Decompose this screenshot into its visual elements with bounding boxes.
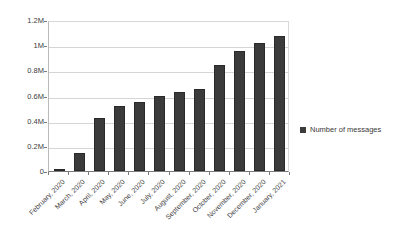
bar-slot xyxy=(89,22,109,171)
legend-square-marker-icon xyxy=(300,127,306,133)
bar-slot xyxy=(190,22,210,171)
bar-slot xyxy=(270,22,290,171)
y-axis-tick-label: 0.2M xyxy=(0,143,44,151)
chart-legend: Number of messages xyxy=(300,125,381,134)
bar-slot xyxy=(250,22,270,171)
y-axis-tick-mark xyxy=(44,71,47,72)
bar-slot xyxy=(210,22,230,171)
bar[interactable] xyxy=(174,92,185,171)
x-axis-tick-mark xyxy=(229,172,230,175)
x-axis-tick-mark xyxy=(189,172,190,175)
legend-label: Number of messages xyxy=(310,125,381,134)
bar[interactable] xyxy=(194,89,205,171)
x-axis-tick-mark xyxy=(269,172,270,175)
bar-slot xyxy=(129,22,149,171)
y-axis-tick-mark xyxy=(44,147,47,148)
y-axis-tick-label: 0.4M xyxy=(0,118,44,126)
y-axis-tick-label: 1M xyxy=(0,42,44,50)
bar[interactable] xyxy=(74,153,85,171)
y-axis-tick-mark xyxy=(44,46,47,47)
x-axis-tick-mark xyxy=(209,172,210,175)
y-axis-tick-mark xyxy=(44,172,47,173)
bar[interactable] xyxy=(134,102,145,171)
bar-slot xyxy=(49,22,69,171)
y-axis-tick-label: 0.8M xyxy=(0,67,44,75)
bar-chart: 1.2M1M0.8M0.6M0.4M0.2M0 February, 2020Ma… xyxy=(0,0,404,242)
bars-layer xyxy=(49,22,288,171)
bar[interactable] xyxy=(154,96,165,171)
x-axis-tick-mark xyxy=(48,172,49,175)
bar[interactable] xyxy=(214,65,225,171)
bar-slot xyxy=(109,22,129,171)
bar[interactable] xyxy=(254,43,265,171)
x-axis-tick-mark xyxy=(249,172,250,175)
bar[interactable] xyxy=(274,36,285,171)
bar-slot xyxy=(149,22,169,171)
bar-slot xyxy=(230,22,250,171)
x-axis-tick-mark xyxy=(148,172,149,175)
x-axis-tick-mark xyxy=(128,172,129,175)
y-axis-tick-label: 1.2M xyxy=(0,17,44,25)
x-axis-tick-mark xyxy=(108,172,109,175)
bar[interactable] xyxy=(94,118,105,171)
x-axis-tick-mark xyxy=(88,172,89,175)
y-axis-tick-mark xyxy=(44,97,47,98)
x-axis-tick-mark xyxy=(68,172,69,175)
bar-slot xyxy=(170,22,190,171)
x-axis-tick-mark xyxy=(289,172,290,175)
plot-area xyxy=(48,21,289,172)
y-axis-tick-mark xyxy=(44,122,47,123)
bar[interactable] xyxy=(234,51,245,171)
y-axis-tick-mark xyxy=(44,21,47,22)
y-axis-tick-label: 0 xyxy=(0,168,44,176)
bar[interactable] xyxy=(114,106,125,171)
y-axis-tick-label: 0.6M xyxy=(0,93,44,101)
bar-slot xyxy=(69,22,89,171)
bar[interactable] xyxy=(54,169,65,171)
x-axis-tick-mark xyxy=(169,172,170,175)
